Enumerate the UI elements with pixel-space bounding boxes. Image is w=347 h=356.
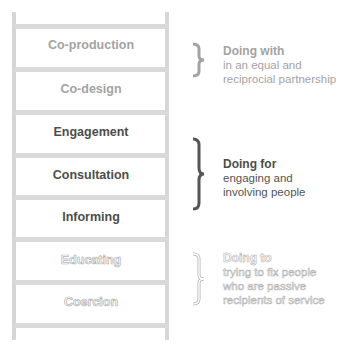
group-doing-to: Doing to trying to fix people who are pa…: [223, 251, 325, 307]
step-coercion: Coercion: [16, 295, 166, 309]
step-consultation: Consultation: [16, 168, 166, 182]
group-title: Doing for: [223, 157, 305, 171]
group-description: recipients of service: [223, 293, 325, 307]
ladder-rung: [14, 237, 168, 242]
group-doing-for: Doing for engaging and involving people: [223, 157, 305, 199]
group-description: engaging and: [223, 171, 305, 185]
step-informing: Informing: [16, 210, 166, 224]
ladder-rung: [14, 153, 168, 158]
brace-doing-for-icon: [191, 137, 207, 211]
group-doing-with: Doing with in an equal and reciprocial p…: [223, 44, 336, 86]
ladder-rung: [14, 110, 168, 115]
group-description: trying to fix people: [223, 265, 325, 279]
ladder-rung: [14, 67, 168, 72]
group-title: Doing with: [223, 44, 336, 58]
brace-doing-to-icon: [191, 252, 207, 306]
brace-doing-with-icon: [191, 42, 207, 78]
group-description: in an equal and: [223, 58, 336, 72]
step-co-production: Co-production: [16, 38, 166, 52]
group-description: who are passive: [223, 279, 325, 293]
group-description: involving people: [223, 185, 305, 199]
step-engagement: Engagement: [16, 125, 166, 139]
ladder-rung: [14, 195, 168, 200]
ladder-rung: [14, 280, 168, 285]
step-co-design: Co-design: [16, 82, 166, 96]
step-educating: Educating: [16, 253, 166, 267]
group-title: Doing to: [223, 251, 325, 265]
ladder-rung: [14, 323, 168, 328]
ladder-rung: [14, 24, 168, 29]
group-description: reciprocial partnership: [223, 72, 336, 86]
